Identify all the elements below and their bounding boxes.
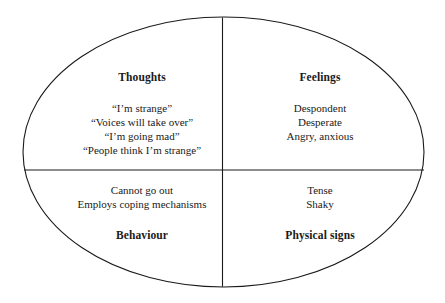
quadrant-feelings: Feelings Despondent Desperate Angry, anx… <box>232 70 408 143</box>
quadrant-physical-signs-items: Tense Shaky <box>232 183 408 211</box>
list-item: Tense <box>232 183 408 197</box>
quadrant-thoughts-heading: Thoughts <box>22 70 262 85</box>
quadrant-thoughts-items: “I’m strange” “Voices will take over” “I… <box>22 101 262 157</box>
quadrant-physical-signs: Tense Shaky Physical signs <box>232 183 408 243</box>
quadrant-feelings-heading: Feelings <box>232 70 408 85</box>
quadrant-feelings-items: Despondent Desperate Angry, anxious <box>232 101 408 143</box>
list-item: Despondent <box>232 101 408 115</box>
list-item: “People think I’m strange” <box>22 143 262 157</box>
quadrant-behaviour: Cannot go out Employs coping mechanisms … <box>22 183 262 243</box>
list-item: Cannot go out <box>22 183 262 197</box>
list-item: Employs coping mechanisms <box>22 197 262 211</box>
list-item: Desperate <box>232 115 408 129</box>
quadrant-physical-signs-heading: Physical signs <box>232 228 408 243</box>
list-item: “Voices will take over” <box>22 115 262 129</box>
hot-cross-bun-diagram: Thoughts “I’m strange” “Voices will take… <box>0 0 445 303</box>
list-item: “I’m strange” <box>22 101 262 115</box>
list-item: Angry, anxious <box>232 129 408 143</box>
list-item: “I’m going mad” <box>22 129 262 143</box>
quadrant-behaviour-items: Cannot go out Employs coping mechanisms <box>22 183 262 211</box>
quadrant-thoughts: Thoughts “I’m strange” “Voices will take… <box>22 70 262 157</box>
list-item: Shaky <box>232 197 408 211</box>
quadrant-behaviour-heading: Behaviour <box>22 228 262 243</box>
